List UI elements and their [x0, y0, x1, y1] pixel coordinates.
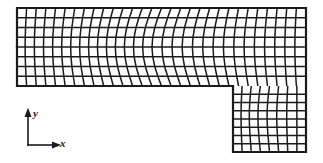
- mesh-outline: [17, 8, 306, 152]
- axis-label-x: x: [60, 138, 66, 149]
- mesh-canvas: [0, 0, 323, 163]
- mesh-figure: y x: [0, 0, 323, 163]
- mesh-interior-lines: [16, 8, 306, 152]
- coordinate-axes-triad: [24, 108, 61, 149]
- axis-label-y: y: [33, 108, 38, 119]
